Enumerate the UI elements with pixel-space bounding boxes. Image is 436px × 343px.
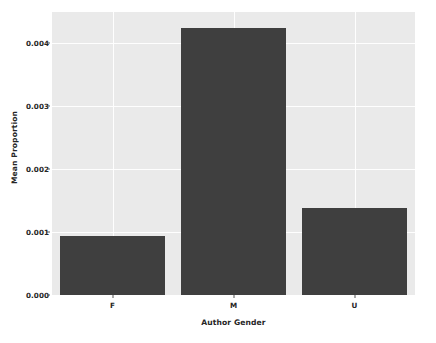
bar-f[interactable] (60, 236, 166, 295)
y-tick-label-0: 0.000 (5, 291, 49, 300)
x-tick-mark-m (233, 295, 234, 298)
x-tick-label-m: M (230, 301, 237, 310)
y-tick-label-2: 0.002 (5, 165, 49, 174)
x-tick-mark-f (112, 295, 113, 298)
bar-chart-figure: Mean Proportion 0.000 0.001 0.002 0.003 … (0, 0, 436, 343)
y-tick-mark-0 (47, 295, 50, 296)
y-axis-ticks: 0.000 0.001 0.002 0.003 0.004 (0, 0, 49, 343)
y-tick-mark-4 (47, 43, 50, 44)
y-tick-label-3: 0.003 (5, 102, 49, 111)
bar-u[interactable] (302, 208, 408, 295)
x-tick-label-u: U (352, 301, 358, 310)
y-tick-label-4: 0.004 (5, 39, 49, 48)
x-tick-mark-u (354, 295, 355, 298)
y-tick-mark-1 (47, 232, 50, 233)
x-axis-title: Author Gender (52, 318, 415, 327)
bar-m[interactable] (181, 28, 287, 295)
y-tick-mark-3 (47, 106, 50, 107)
y-tick-label-1: 0.001 (5, 228, 49, 237)
x-tick-label-f: F (110, 301, 115, 310)
plot-area (52, 12, 415, 295)
y-tick-mark-2 (47, 169, 50, 170)
